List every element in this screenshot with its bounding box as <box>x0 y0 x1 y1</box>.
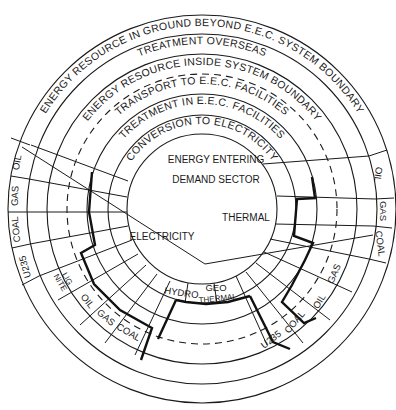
right-fuel-oil: OIL <box>372 166 385 183</box>
lower-right-u235: U235 <box>259 328 284 351</box>
divider-right <box>205 235 373 264</box>
lower-left-oil: OIL <box>79 291 97 310</box>
ring-ground-inner <box>27 34 377 384</box>
geothermal-label-1: GEO <box>205 282 226 293</box>
ring-labels: ENERGY RESOURCE IN GROUND BEYOND E.E.C. … <box>37 16 367 163</box>
left-radial-grid <box>8 138 170 355</box>
lower-right-oil: OIL <box>310 292 327 311</box>
center-title-line1: ENERGY ENTERING <box>168 154 265 165</box>
left-fuel-coal: COAL <box>9 216 22 243</box>
right-fuel-gas: GAS <box>378 201 389 221</box>
center-title-line2: DEMAND SECTOR <box>172 174 260 185</box>
lower-right-gas: GAS <box>325 262 343 285</box>
hydro-label: HYDRO <box>164 285 200 301</box>
right-fuel-coal: COAL <box>373 230 387 257</box>
left-fuel-gas: GAS <box>9 186 21 206</box>
energy-flow-ring-diagram: ENERGY RESOURCE IN GROUND BEYOND E.E.C. … <box>0 0 396 410</box>
label-overseas: TREATMENT OVERSEAS <box>135 34 268 58</box>
sector-thermal-label: THERMAL <box>222 212 270 223</box>
sector-electricity-label: ELECTRICITY <box>129 231 194 242</box>
left-fuel-u235: U235 <box>16 255 33 280</box>
right-radial-grid <box>246 150 394 343</box>
left-fuel-oil: OIL <box>10 154 23 171</box>
